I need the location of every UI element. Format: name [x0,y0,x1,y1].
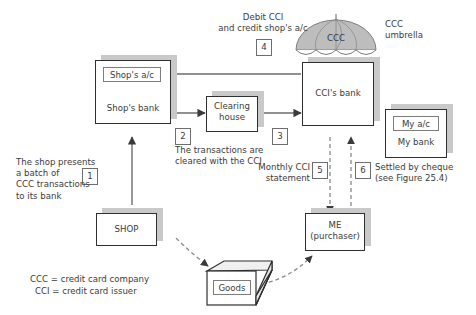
step-number-3: 3 [272,128,288,145]
legend-cci: CCI = credit card issuer [35,286,137,297]
connector-shop-to-goods [176,238,208,266]
my-account-label: My a/c [402,119,430,129]
step-number-4: 4 [256,39,272,56]
my-account-subbox[interactable]: My a/c [393,116,439,131]
step-number-6: 6 [355,162,371,179]
legend-ccc: CCC = credit card company [30,274,149,285]
step-6-caption: Settled by cheque (see Figure 25.4) [375,162,453,184]
umbrella-caption: CCC umbrella [385,19,423,41]
shops-account-label: Shop's a/c [110,70,154,80]
shops-account-subbox[interactable]: Shop's a/c [103,67,161,82]
me-label: ME (purchaser) [305,220,365,242]
figure-canvas: Shop's a/c Shop's bank Clearing house CC… [0,0,476,315]
my-bank-label: My bank [385,137,447,148]
goods-label: Goods [218,283,245,293]
umbrella-ccc-label: CCC [316,33,356,44]
step-4-caption: Debit CCI and credit shop's a/c [190,12,336,34]
ccis-bank-label: CCI's bank [302,88,374,99]
clearing-house-label: Clearing house [206,101,258,123]
goods-label-box: Goods [213,280,251,295]
step-number-5: 5 [312,162,328,179]
step-1-caption: The shop presents a batch of CCC transac… [16,157,95,202]
step-5-caption: Monthly CCI statement [228,162,310,184]
shops-bank-label: Shop's bank [95,103,171,114]
step-number-2: 2 [175,128,191,145]
shop-label: SHOP [96,224,157,235]
